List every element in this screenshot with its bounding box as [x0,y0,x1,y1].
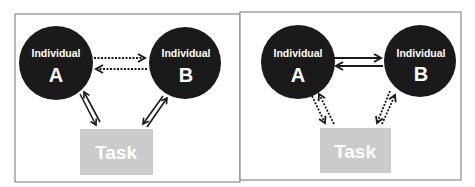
left-individual-b-caption: Individual [161,47,210,59]
left-individual-a-node: Individual A [19,26,93,100]
left-task-label: Task [95,142,137,163]
left-individual-a-letter: A [49,64,63,86]
left-individual-b-node: Individual B [149,27,221,99]
left-individual-b-letter: B [179,64,193,86]
right-individual-a-letter: A [291,64,305,86]
right-panel: Individual A Individual B Task [240,12,461,180]
right-individual-b-letter: B [414,63,428,85]
right-task-node: Task [320,128,391,173]
left-individual-a-caption: Individual [31,47,80,59]
diagram-canvas: Individual A Individual B Task [0,0,475,187]
right-task-label: Task [334,141,376,162]
right-individual-a-caption: Individual [273,47,322,59]
left-task-node: Task [80,129,153,175]
right-individual-b-node: Individual B [384,25,456,97]
left-panel: Individual A Individual B Task [15,14,240,182]
right-individual-a-node: Individual A [261,25,335,99]
right-individual-b-caption: Individual [396,47,445,59]
